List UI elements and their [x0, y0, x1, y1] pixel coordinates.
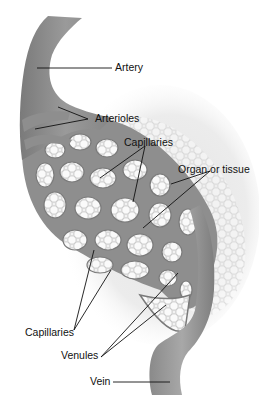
label-artery: Artery — [115, 62, 143, 73]
label-vein: Vein — [90, 376, 110, 387]
label-capillaries-bottom: Capillaries — [25, 327, 74, 338]
label-capillaries-top: Capillaries — [124, 137, 173, 148]
label-venules: Venules — [61, 350, 98, 361]
label-organ-or-tissue: Organ or tissue — [178, 164, 250, 175]
label-arterioles: Arterioles — [95, 113, 139, 124]
